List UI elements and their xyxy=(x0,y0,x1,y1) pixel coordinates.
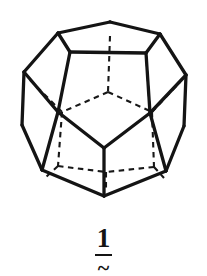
compound-number: 1 xyxy=(95,225,113,256)
tilde-mark: ~ xyxy=(95,257,113,276)
edge-right-upper-silhouette xyxy=(184,75,186,126)
dodecahedron-figure xyxy=(0,0,207,215)
figure-label: 1 ~ xyxy=(0,215,207,276)
edge-left-upper-silhouette xyxy=(22,72,24,125)
edge-top-face-front xyxy=(70,52,146,53)
dodecahedron-drawing xyxy=(0,0,207,215)
compound-number-stack: 1 ~ xyxy=(95,225,113,276)
figure-page: 1 ~ xyxy=(0,0,207,276)
